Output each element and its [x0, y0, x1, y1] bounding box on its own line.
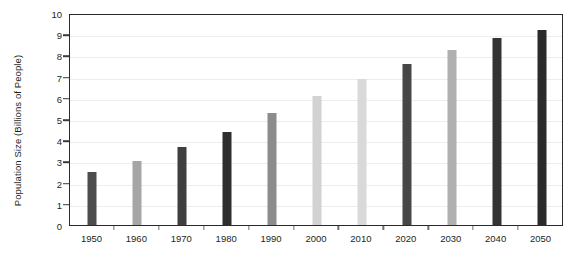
population-bar-chart: Population Size (Billions of People) 012… — [0, 0, 571, 261]
x-tick-label: 1970 — [171, 233, 192, 244]
y-tick-label: 4 — [36, 136, 62, 147]
bar — [223, 132, 232, 225]
bar — [178, 147, 187, 225]
y-tick-label: 9 — [36, 30, 62, 41]
y-tick-label: 10 — [36, 9, 62, 20]
bar — [268, 113, 277, 225]
x-tick-label: 2010 — [350, 233, 371, 244]
y-tick-label: 6 — [36, 93, 62, 104]
bar — [537, 30, 546, 225]
bar-series — [70, 15, 562, 225]
y-tick-label: 2 — [36, 178, 62, 189]
bar — [313, 96, 322, 225]
x-tick-label: 1950 — [81, 233, 102, 244]
x-tick-mark — [428, 226, 429, 230]
x-tick-label: 1990 — [261, 233, 282, 244]
x-tick-label: 1960 — [126, 233, 147, 244]
x-tick-label: 2000 — [305, 233, 326, 244]
x-tick-label: 2050 — [530, 233, 551, 244]
bar — [447, 50, 456, 225]
y-tick-label: 7 — [36, 72, 62, 83]
x-tick-mark — [338, 226, 339, 230]
x-tick-label: 2030 — [440, 233, 461, 244]
bar — [88, 172, 97, 225]
bar — [357, 79, 366, 225]
y-axis-title: Population Size (Billions of People) — [0, 0, 34, 261]
bar — [133, 161, 142, 225]
x-tick-mark — [113, 226, 114, 230]
x-axis-tick-labels: 1950196019701980199020002010202020302040… — [69, 233, 563, 251]
x-tick-mark — [158, 226, 159, 230]
plot-area — [69, 14, 563, 226]
y-tick-label: 8 — [36, 51, 62, 62]
bar — [402, 64, 411, 225]
x-tick-mark — [293, 226, 294, 230]
y-tick-label: 3 — [36, 157, 62, 168]
x-tick-mark — [203, 226, 204, 230]
y-tick-label: 5 — [36, 115, 62, 126]
bar — [492, 38, 501, 225]
x-tick-mark — [517, 226, 518, 230]
y-axis-tick-labels: 012345678910 — [36, 14, 62, 226]
x-tick-label: 2040 — [485, 233, 506, 244]
y-tick-label: 0 — [36, 221, 62, 232]
x-tick-mark — [383, 226, 384, 230]
x-tick-label: 2020 — [395, 233, 416, 244]
y-tick-label: 1 — [36, 199, 62, 210]
x-tick-mark — [248, 226, 249, 230]
x-axis-tick-marks — [69, 226, 563, 231]
x-tick-label: 1980 — [216, 233, 237, 244]
x-tick-mark — [473, 226, 474, 230]
